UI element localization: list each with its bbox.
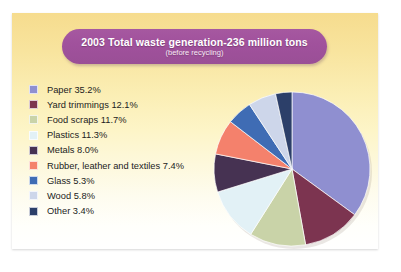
legend-item: Metals 8.0% [20, 143, 220, 158]
legend-item-label: Food scraps 11.7% [47, 115, 126, 125]
legend-item-label: Glass 5.3% [47, 176, 95, 186]
legend-item-label: Wood 5.8% [47, 191, 95, 201]
legend-item: Wood 5.8% [20, 188, 220, 203]
legend-item-label: Yard trimmings 12.1% [47, 100, 138, 110]
legend-item: Food scraps 11.7% [20, 112, 220, 127]
legend-item-label: Plastics 11.3% [47, 130, 107, 140]
page-title: 2003 Total waste generation-236 million … [81, 36, 308, 48]
legend-item-label: Metals 8.0% [47, 145, 98, 155]
legend-swatch-icon [29, 100, 38, 109]
legend-swatch-icon [29, 176, 38, 185]
chart-title-banner: 2003 Total waste generation-236 million … [62, 29, 327, 64]
legend-item: Paper 35.2% [20, 82, 220, 97]
legend-item-label: Rubber, leather and textiles 7.4% [47, 161, 184, 171]
legend-swatch-icon [29, 115, 38, 124]
legend-swatch-icon [29, 191, 38, 200]
page-subtitle: (before recycling) [166, 48, 224, 58]
legend-item: Rubber, leather and textiles 7.4% [20, 158, 220, 173]
legend-swatch-icon [29, 161, 38, 170]
legend-swatch-icon [29, 85, 38, 94]
legend-swatch-icon [29, 207, 38, 216]
legend-swatch-icon [29, 146, 38, 155]
legend-item: Yard trimmings 12.1% [20, 97, 220, 112]
chart-legend: Paper 35.2%Yard trimmings 12.1%Food scra… [20, 82, 220, 219]
pie-chart-svg [210, 89, 374, 249]
legend-item-label: Paper 35.2% [47, 85, 101, 95]
legend-item-label: Other 3.4% [47, 206, 94, 216]
pie-chart [210, 89, 374, 249]
legend-item: Glass 5.3% [20, 173, 220, 188]
legend-swatch-icon [29, 131, 38, 140]
legend-item: Plastics 11.3% [20, 128, 220, 143]
legend-item: Other 3.4% [20, 204, 220, 219]
chart-card: 2003 Total waste generation-236 million … [12, 13, 378, 249]
